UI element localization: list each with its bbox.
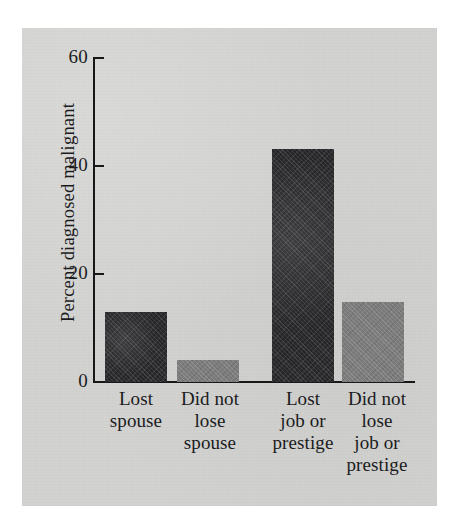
bar-lost-job-or-prestige: [272, 149, 334, 382]
bar-lost-spouse: [105, 312, 167, 382]
y-tick-label-20: 20: [48, 262, 88, 284]
x-tick-label-line: lose: [170, 410, 250, 432]
x-tick-label-line: lose: [335, 410, 419, 432]
x-tick-label-line: job or: [335, 432, 419, 454]
x-tick-label-line: job or: [261, 410, 345, 432]
x-tick-label-line: Lost: [261, 388, 345, 410]
y-tick-mark-20: [95, 273, 104, 275]
x-tick-label-line: Lost: [96, 388, 176, 410]
x-tick-label-did-not-lose-spouse: Did not lose spouse: [170, 388, 250, 454]
y-tick-label-40: 40: [48, 154, 88, 176]
x-tick-label-lost-job-or-prestige: Lost job or prestige: [261, 388, 345, 454]
y-axis-line: [93, 57, 95, 383]
x-tick-label-line: Did not: [335, 388, 419, 410]
y-tick-label-0: 0: [48, 370, 88, 392]
x-tick-label-line: spouse: [170, 432, 250, 454]
bar-did-not-lose-job-or-prestige: [342, 302, 404, 382]
y-axis-title: Percent diagnosed malignant: [58, 88, 79, 338]
figure-panel: Percent diagnosed malignant 60 40 20 0 L…: [22, 28, 437, 506]
x-tick-label-did-not-lose-job-or-prestige: Did not lose job or prestige: [335, 388, 419, 476]
y-tick-mark-60: [95, 57, 104, 59]
bar-chart-plot-area: Percent diagnosed malignant 60 40 20 0 L…: [22, 28, 437, 506]
x-tick-label-line: spouse: [96, 410, 176, 432]
y-tick-mark-40: [95, 165, 104, 167]
x-tick-label-lost-spouse: Lost spouse: [96, 388, 176, 432]
y-tick-mark-0: [95, 381, 104, 383]
bar-did-not-lose-spouse: [177, 360, 239, 382]
y-tick-label-60: 60: [48, 46, 88, 68]
x-tick-label-line: prestige: [261, 432, 345, 454]
x-tick-label-line: prestige: [335, 454, 419, 476]
x-tick-label-line: Did not: [170, 388, 250, 410]
